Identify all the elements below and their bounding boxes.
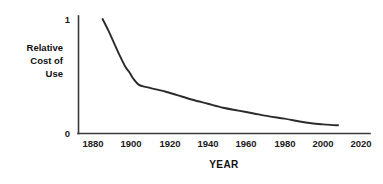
x-tick-label-1960: 1960 [235,138,256,149]
x-tick-label-1900: 1900 [120,138,141,149]
line-chart-canvas: 1 0 1880 1900 1920 1940 1960 1980 2000 2… [0,0,383,184]
x-tick-label-1980: 1980 [274,138,295,149]
y-axis-title-line-3: Use [46,68,63,79]
x-tick-label-2000: 2000 [312,138,333,149]
x-axis-title: YEAR [209,159,239,170]
x-tick-label-1920: 1920 [159,138,180,149]
x-tick-label-2020: 2020 [350,138,371,149]
x-tick-label-1880: 1880 [82,138,103,149]
x-tick-label-1940: 1940 [197,138,218,149]
y-tick-label-1: 1 [65,14,71,25]
y-tick-label-0: 0 [65,128,70,139]
relative-cost-curve [103,19,338,125]
y-axis-title-line-2: Cost of [30,55,64,66]
y-axis-title-line-1: Relative [27,42,63,53]
chart-figure: 1 0 1880 1900 1920 1940 1960 1980 2000 2… [0,0,383,184]
